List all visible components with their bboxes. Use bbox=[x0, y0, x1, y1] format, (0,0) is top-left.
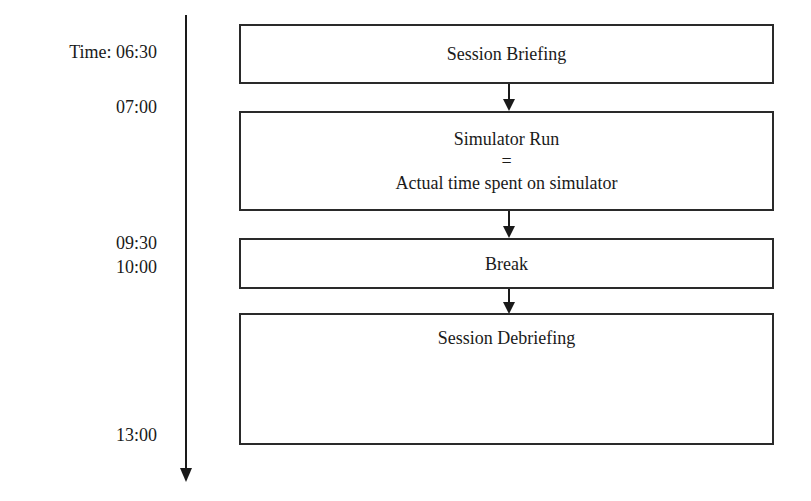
break-box: Break bbox=[239, 238, 774, 289]
arrow-down-icon bbox=[503, 99, 515, 111]
box-sublabel: Actual time spent on simulator bbox=[396, 172, 618, 194]
box-label: Simulator Run bbox=[454, 128, 560, 150]
box-label: Session Debriefing bbox=[438, 327, 575, 349]
timeline-arrow-down-icon bbox=[180, 468, 192, 482]
connector-line bbox=[508, 84, 510, 100]
time-label-0930: 09:30 bbox=[116, 233, 157, 253]
time-label-1300: 13:00 bbox=[116, 425, 157, 445]
box-label: Break bbox=[485, 253, 528, 275]
time-label-start: Time: 06:30 bbox=[69, 42, 157, 62]
connector-line bbox=[508, 289, 510, 303]
timeline-axis bbox=[185, 15, 187, 470]
arrow-down-icon bbox=[503, 226, 515, 238]
time-label-0700: 07:00 bbox=[116, 97, 157, 117]
time-label-1000: 10:00 bbox=[116, 257, 157, 277]
session-briefing-box: Session Briefing bbox=[239, 24, 774, 84]
connector-line bbox=[508, 211, 510, 227]
box-label: Session Briefing bbox=[447, 43, 567, 65]
simulator-run-box: Simulator Run = Actual time spent on sim… bbox=[239, 111, 774, 211]
session-debriefing-box: Session Debriefing bbox=[239, 313, 774, 445]
box-equals: = bbox=[501, 150, 511, 172]
